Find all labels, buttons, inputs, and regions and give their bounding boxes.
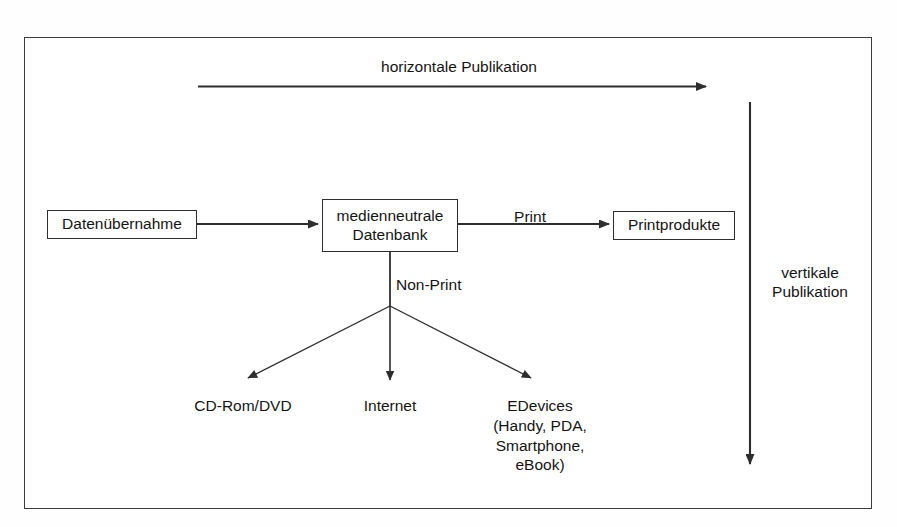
node-datenuebernahme[interactable]: Datenübernahme [47, 210, 197, 239]
leaf-label-cd-rom-dvd: CD-Rom/DVD [168, 396, 318, 416]
leaf-label-edevices: EDevices (Handy, PDA, Smartphone, eBook) [470, 396, 610, 475]
horizontal-publication-label: horizontale Publikation [259, 58, 659, 77]
edge-label-print: Print [490, 208, 570, 227]
edge-label-non-print: Non-Print [396, 276, 486, 295]
node-printprodukte[interactable]: Printprodukte [613, 211, 735, 240]
edge-nonprint-to-edevices [390, 306, 531, 378]
vertical-publication-label: vertikale Publikation [755, 264, 865, 301]
leaf-label-internet: Internet [330, 396, 450, 416]
node-medienneutrale-datenbank[interactable]: medienneutrale Datenbank [322, 199, 458, 252]
edge-nonprint-to-cdrom [248, 306, 390, 378]
diagram-canvas: horizontale Publikation vertikale Publik… [0, 0, 897, 527]
